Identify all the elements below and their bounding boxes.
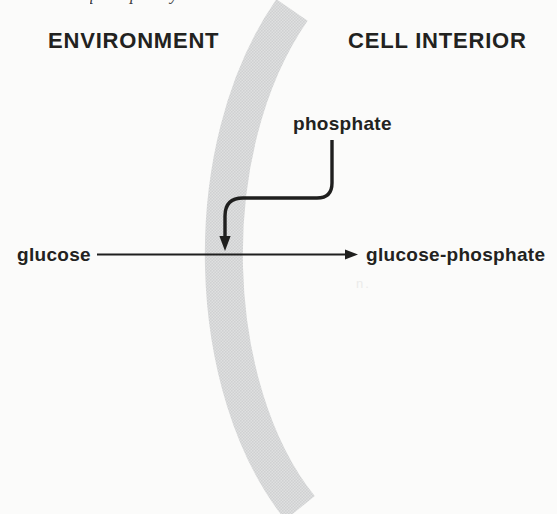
print-smudge-artifact: n. [356, 276, 371, 291]
membrane-transport-diagram: phosphorylation ENVIRONMENT CELL INTERIO… [0, 0, 557, 514]
glucose-label: glucose [17, 245, 91, 264]
cell-membrane-band [224, 10, 300, 508]
phosphate-label: phosphate [293, 114, 392, 133]
glucose-phosphate-label: glucose-phosphate [366, 245, 545, 264]
arrowhead-right-icon [345, 250, 358, 260]
